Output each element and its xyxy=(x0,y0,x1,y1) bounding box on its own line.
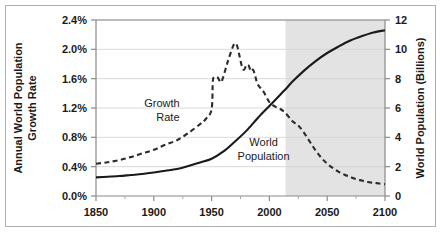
right-tick-label: 8 xyxy=(395,73,401,85)
world-population-annotation-line2: Population xyxy=(238,150,290,162)
left-tick-label: 0.4% xyxy=(62,161,87,173)
right-axis-title: World Population (Billions) xyxy=(414,37,426,178)
population-growth-chart: 0.0%0.4%0.8%1.2%1.6%2.0%2.4%024681012185… xyxy=(0,0,442,233)
x-tick-label: 2050 xyxy=(315,206,339,218)
left-tick-label: 1.2% xyxy=(62,102,87,114)
left-axis-title-line1: Annual World Population xyxy=(12,42,24,173)
right-axis-ticks: 024681012 xyxy=(385,14,407,202)
right-tick-label: 10 xyxy=(395,43,407,55)
left-axis-title-line2: Growth Rate xyxy=(26,75,38,140)
x-tick-label: 1850 xyxy=(84,206,108,218)
right-tick-label: 2 xyxy=(395,161,401,173)
left-tick-label: 0.0% xyxy=(62,190,87,202)
right-tick-label: 4 xyxy=(395,131,402,143)
world-population-annotation-line1: World xyxy=(249,136,278,148)
left-tick-label: 1.6% xyxy=(62,73,87,85)
left-axis-title: Annual World PopulationGrowth Rate xyxy=(12,42,38,173)
x-tick-label: 1900 xyxy=(142,206,166,218)
right-tick-label: 12 xyxy=(395,14,407,26)
x-tick-label: 2100 xyxy=(373,206,397,218)
growth-rate-annotation-line1: Growth xyxy=(144,97,179,109)
left-axis-ticks: 0.0%0.4%0.8%1.2%1.6%2.0%2.4% xyxy=(62,14,96,202)
x-tick-label: 2000 xyxy=(257,206,281,218)
x-axis-ticks: 185019001950200020502100 xyxy=(84,196,397,218)
right-axis-title-text: World Population (Billions) xyxy=(414,37,426,178)
right-tick-label: 0 xyxy=(395,190,401,202)
x-tick-label: 1950 xyxy=(199,206,223,218)
left-tick-label: 2.0% xyxy=(62,43,87,55)
chart-figure: 0.0%0.4%0.8%1.2%1.6%2.0%2.4%024681012185… xyxy=(0,0,442,233)
left-tick-label: 0.8% xyxy=(62,131,87,143)
left-tick-label: 2.4% xyxy=(62,14,87,26)
right-tick-label: 6 xyxy=(395,102,401,114)
growth-rate-annotation-line2: Rate xyxy=(156,111,179,123)
